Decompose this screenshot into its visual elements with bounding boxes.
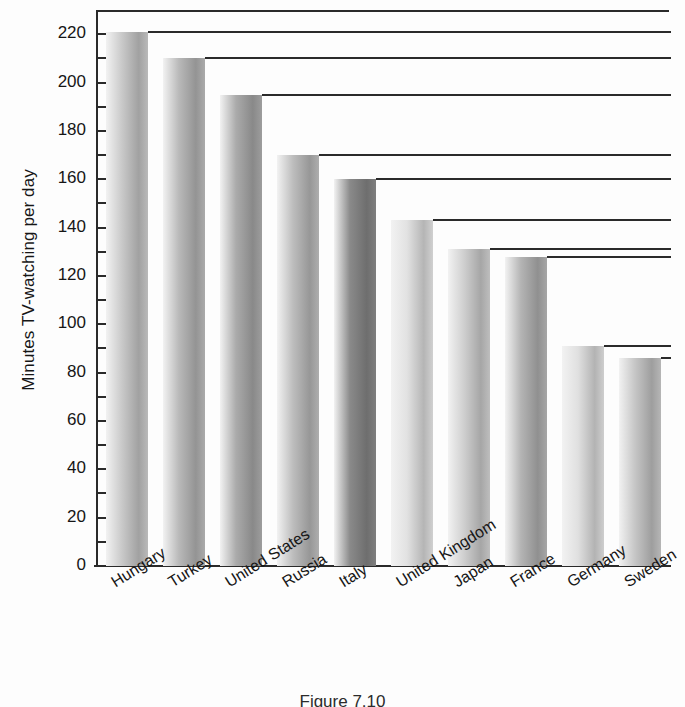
bar-hungary [106, 32, 148, 566]
bar-chart-figure: Minutes TV-watching per day 020406080100… [0, 0, 685, 707]
bar-sweden [619, 358, 661, 566]
bar-united-kingdom [391, 220, 433, 566]
bar-turkey [163, 58, 205, 566]
bar-germany [562, 346, 604, 566]
bars-layer [0, 0, 685, 566]
bar-italy [334, 179, 376, 566]
bar-france [505, 257, 547, 566]
figure-caption: Figure 7.10 [0, 692, 685, 707]
bar-united-states [220, 95, 262, 566]
bar-russia [277, 155, 319, 566]
